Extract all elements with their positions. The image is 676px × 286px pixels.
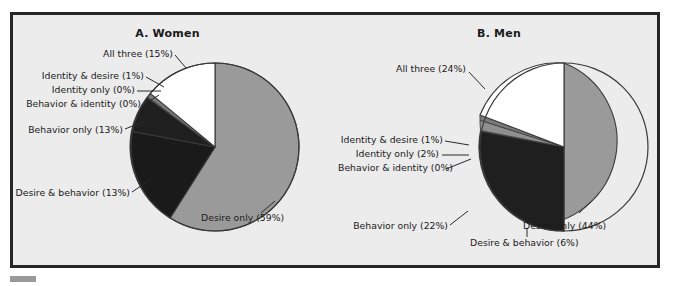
panel-women: A. Women bbox=[13, 15, 338, 271]
label-behavior-only-men: Behavior only (22%) bbox=[338, 220, 448, 231]
label-identity-desire-men: Identity & desire (1%) bbox=[338, 134, 443, 145]
pie-svg-men bbox=[478, 61, 650, 233]
label-identity-only-men: Identity only (2%) bbox=[338, 148, 439, 159]
slice-behavior-only bbox=[479, 131, 564, 231]
corner-mark bbox=[10, 276, 36, 282]
label-identity-desire-women: Identity & desire (1%) bbox=[13, 70, 144, 81]
label-all-three-women: All three (15%) bbox=[13, 48, 173, 59]
panel-title-men: B. Men bbox=[338, 27, 660, 40]
label-behavior-identity-men: Behavior & identity (0%) bbox=[338, 162, 443, 173]
figure-container: A. Women bbox=[0, 0, 676, 286]
pie-svg-women bbox=[129, 61, 301, 233]
label-desire-only-women: Desire only (59%) bbox=[201, 212, 284, 223]
label-desire-behavior-men: Desire & behavior (6%) bbox=[470, 237, 579, 248]
pie-chart-men bbox=[478, 61, 650, 233]
pie-chart-women bbox=[129, 61, 301, 233]
label-desire-behavior-women: Desire & behavior (13%) bbox=[13, 187, 130, 198]
panel-title-women: A. Women bbox=[5, 27, 330, 40]
label-all-three-men: All three (24%) bbox=[338, 63, 466, 74]
label-desire-only-men: Desire only (44%) bbox=[523, 220, 606, 231]
figure-frame: A. Women bbox=[10, 12, 660, 268]
panel-men: B. Men bbox=[338, 15, 660, 271]
label-behavior-only-women: Behavior only (13%) bbox=[13, 124, 123, 135]
label-behavior-identity-women: Behavior & identity (0%) bbox=[13, 98, 141, 109]
label-identity-only-women: Identity only (0%) bbox=[13, 84, 135, 95]
